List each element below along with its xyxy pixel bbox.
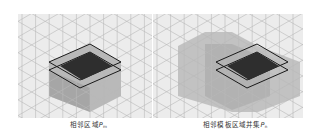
- figure: 相邻区域Pm 相邻模板区域并集Pn: [0, 0, 320, 136]
- isometric-figure-svg: [0, 0, 320, 136]
- left-panel: [18, 0, 152, 136]
- left-caption-subscript: m: [103, 124, 107, 129]
- right-caption: 相邻模板区域并集Pn: [203, 119, 267, 129]
- right-panel: [153, 0, 303, 136]
- left-caption: 相邻区域Pm: [70, 119, 107, 129]
- right-caption-subscript: n: [265, 124, 268, 129]
- right-caption-text: 相邻模板区域并集: [203, 121, 261, 129]
- left-caption-text: 相邻区域: [70, 121, 99, 129]
